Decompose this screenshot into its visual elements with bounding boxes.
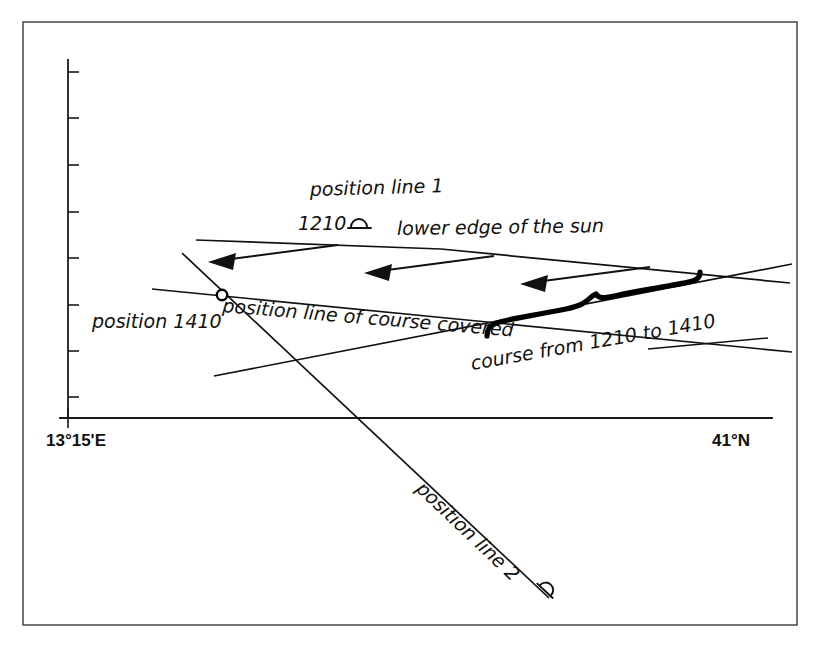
position-1410-label: position 1410 [91, 310, 222, 332]
lower-edge-of-the-sun-label: lower edge of the sun [397, 214, 604, 239]
diagram-canvas: position line 1 1210 lower edge of the s… [0, 0, 826, 655]
sun-lower-limb-icon [348, 219, 371, 228]
time-1210-label: 1210 [298, 212, 346, 234]
sun-lower-limb-icon [537, 577, 558, 598]
position-line-2-label: position line 2 [412, 476, 525, 585]
sun-ray-arrows [208, 245, 650, 292]
ray-arrowhead-icon [364, 256, 494, 281]
position-line-1 [441, 249, 790, 283]
navigation-diagram-figure: position line 1 1210 lower edge of the s… [0, 0, 826, 655]
ray-arrowhead-icon [520, 267, 650, 292]
y-axis-label: 13°15'E [46, 431, 106, 450]
position-line-1-label: position line 1 [308, 174, 443, 200]
y-axis-ticks [68, 72, 79, 397]
x-axis-label: 41°N [712, 431, 750, 450]
position-line-of-course-covered-label: position line of course covered [221, 294, 516, 341]
ray-arrowhead-icon [208, 245, 338, 270]
